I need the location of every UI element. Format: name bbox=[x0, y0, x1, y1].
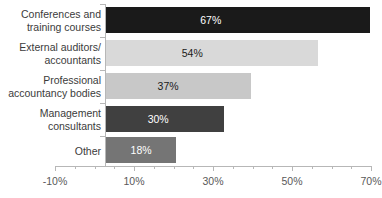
value-axis-tick-50 bbox=[292, 166, 293, 171]
value-axis-tick-5 bbox=[114, 166, 115, 169]
bar-professional-accountancy-bodies: 37% bbox=[105, 73, 251, 99]
category-tick-4 bbox=[100, 136, 105, 137]
category-label-2-line-0: Professional bbox=[8, 74, 101, 86]
value-axis-tick-15 bbox=[154, 166, 155, 169]
category-label-4-line-0: Other bbox=[75, 145, 101, 157]
value-axis-label-0: -10% bbox=[43, 175, 68, 187]
value-axis-tick-30 bbox=[213, 166, 214, 171]
plot-area: 67% 54% 37% 30% 18% bbox=[105, 0, 381, 166]
value-axis-tick-70 bbox=[371, 166, 372, 171]
category-label-3-line-0: Management bbox=[40, 107, 101, 119]
value-axis-tick-55 bbox=[312, 166, 313, 169]
bar-value-3: 30% bbox=[148, 114, 169, 125]
value-axis-tick-35 bbox=[233, 166, 234, 169]
bar-conferences-and-training-courses: 67% bbox=[105, 7, 370, 33]
value-axis-label-1: 10% bbox=[123, 175, 144, 187]
bar-other: 18% bbox=[105, 137, 176, 163]
category-label-4: Other bbox=[1, 136, 105, 166]
category-label-1-line-1: accountants bbox=[19, 54, 101, 66]
category-label-3-line-1: consultants bbox=[40, 120, 101, 132]
value-axis-tick--10 bbox=[55, 166, 56, 171]
category-tick-1 bbox=[100, 37, 105, 38]
value-axis-label-4: 70% bbox=[360, 175, 381, 187]
value-axis-tick-25 bbox=[193, 166, 194, 169]
bar-value-4: 18% bbox=[131, 145, 152, 156]
category-tick-0 bbox=[100, 4, 105, 5]
category-label-0: Conferences and training courses bbox=[1, 4, 105, 37]
value-axis-label-2: 30% bbox=[202, 175, 223, 187]
value-axis-tick-10 bbox=[134, 166, 135, 171]
bar-value-1: 54% bbox=[182, 48, 203, 59]
category-label-3: Management consultants bbox=[1, 103, 105, 136]
bar-external-auditors-accountants: 54% bbox=[105, 40, 318, 66]
value-axis-tick-45 bbox=[272, 166, 273, 169]
category-label-2-line-1: accountancy bodies bbox=[8, 87, 101, 99]
category-axis-line bbox=[105, 4, 106, 166]
value-axis-tick-40 bbox=[253, 166, 254, 169]
bar-value-0: 67% bbox=[200, 15, 221, 26]
category-label-1-line-0: External auditors/ bbox=[19, 41, 101, 53]
bar-management-consultants: 30% bbox=[105, 106, 224, 132]
value-axis-tick-20 bbox=[174, 166, 175, 169]
category-tick-3 bbox=[100, 103, 105, 104]
value-axis-tick--5 bbox=[75, 166, 76, 169]
value-axis-tick-60 bbox=[332, 166, 333, 169]
value-axis-tick-0 bbox=[95, 166, 96, 169]
bar-value-2: 37% bbox=[158, 81, 179, 92]
category-label-0-line-1: training courses bbox=[21, 21, 101, 33]
category-label-0-line-0: Conferences and bbox=[21, 8, 101, 20]
category-tick-2 bbox=[100, 70, 105, 71]
category-label-2: Professional accountancy bodies bbox=[1, 70, 105, 103]
value-axis-label-3: 50% bbox=[281, 175, 302, 187]
category-label-1: External auditors/ accountants bbox=[1, 37, 105, 70]
value-axis-tick-65 bbox=[351, 166, 352, 169]
